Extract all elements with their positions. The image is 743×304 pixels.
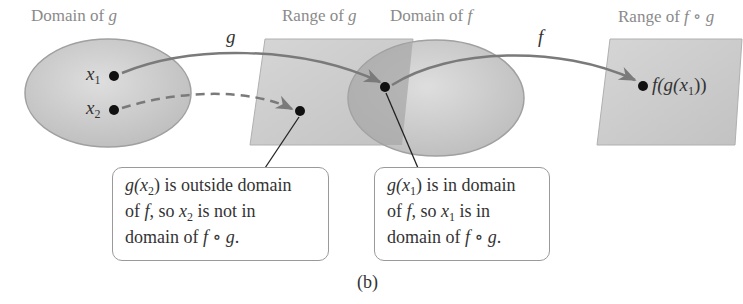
point-g-x2 [295, 106, 305, 116]
text: g(x [125, 175, 148, 195]
label-sub: 1 [94, 73, 100, 87]
label-sub: 2 [94, 107, 100, 121]
text: ) is in domain [416, 175, 516, 195]
var: x [179, 201, 187, 221]
label-var: g [348, 6, 357, 25]
point-x2 [109, 105, 119, 115]
text: is not in [193, 201, 256, 221]
text: domain of [387, 227, 465, 247]
point-g-x1 [380, 82, 390, 92]
callout-line-1: g(x1) is in domain [387, 172, 539, 198]
label-domain-f: Domain of f [390, 6, 472, 26]
label-text: Range of [618, 7, 684, 26]
label-var: g [108, 6, 117, 25]
label-text: Domain of [31, 6, 108, 25]
text: . [235, 227, 240, 247]
label-text: Domain of [390, 6, 467, 25]
callout-line-3: domain of f ∘ g. [125, 224, 318, 250]
label-range-fg: Range of f ∘ g [618, 6, 714, 27]
diagram-canvas [0, 0, 743, 304]
text: . [497, 227, 502, 247]
arrow-label-f: f [538, 26, 543, 48]
callout-line-3: domain of f ∘ g. [387, 224, 539, 250]
var: f ∘ g [465, 227, 497, 247]
point-label-x1: x1 [86, 63, 100, 85]
figure-caption: (b) [357, 272, 378, 293]
point-label-x2: x2 [86, 97, 100, 119]
var: x [441, 201, 449, 221]
text: ) is outside domain [154, 175, 292, 195]
text: is in [455, 201, 490, 221]
label-domain-g: Domain of g [31, 6, 117, 26]
label-pre: f(g(x [652, 74, 688, 95]
label-range-g: Range of g [282, 6, 357, 26]
callout-outside-domain: g(x2) is outside domain of f, so x2 is n… [112, 167, 329, 261]
text: , so [412, 201, 442, 221]
point-x1 [109, 71, 119, 81]
point-f-g-x1 [638, 81, 648, 91]
text: , so [150, 201, 180, 221]
arrow-label-g: g [226, 26, 236, 48]
label-text: Range of [282, 6, 348, 25]
text: g(x [387, 175, 410, 195]
callout-in-domain: g(x1) is in domain of f, so x1 is in dom… [374, 167, 550, 261]
var: f ∘ g [203, 227, 235, 247]
label-var: f ∘ g [684, 7, 714, 26]
label-post: )) [694, 74, 707, 95]
text: of [387, 201, 407, 221]
point-label-result: f(g(x1)) [652, 74, 707, 96]
domain-g-shape [25, 39, 191, 147]
callout-line-1: g(x2) is outside domain [125, 172, 318, 198]
text: of [125, 201, 145, 221]
callout-line-2: of f, so x2 is not in [125, 198, 318, 224]
label-var: f [467, 6, 472, 25]
callout-line-2: of f, so x1 is in [387, 198, 539, 224]
text: domain of [125, 227, 203, 247]
